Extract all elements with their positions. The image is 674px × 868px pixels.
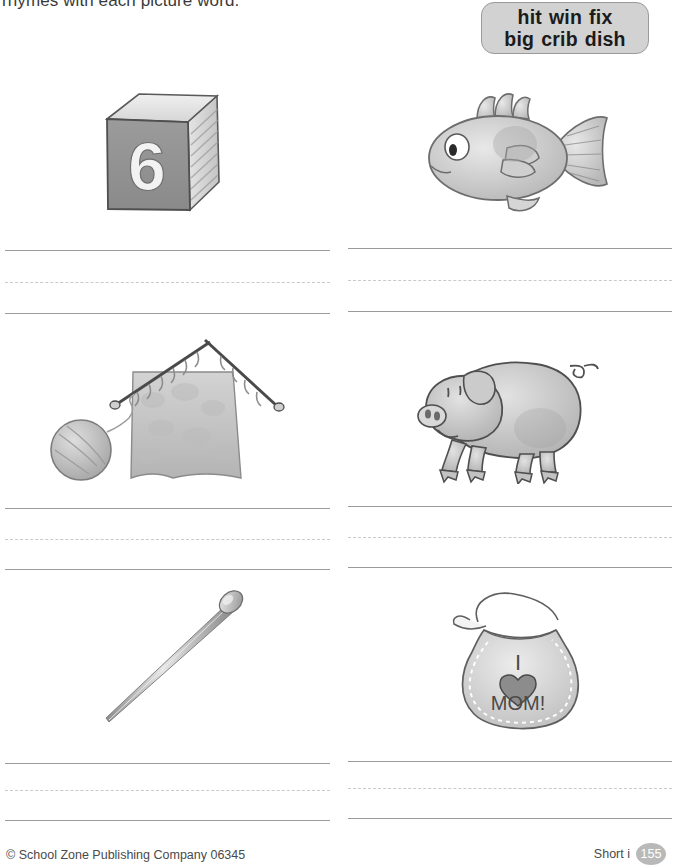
writing-lines-group-3-left[interactable] <box>5 763 330 829</box>
rule-middle-dashed <box>5 539 330 540</box>
skill-label: Short i <box>594 847 630 861</box>
writing-lines-group-2-right[interactable] <box>348 506 672 572</box>
knitting-icon <box>45 328 295 488</box>
rule-top-solid <box>5 508 330 509</box>
rule-middle-dashed <box>5 282 330 283</box>
straight-pin-icon <box>85 582 255 732</box>
writing-lines-group-1-right[interactable] <box>348 248 672 314</box>
word-hit[interactable]: hit <box>518 6 542 28</box>
rule-bottom-solid <box>5 820 330 821</box>
instruction-text: rhymes with each picture word. <box>2 0 239 11</box>
picture-toy-block: 6 <box>95 82 230 222</box>
rule-middle-dashed <box>348 788 672 789</box>
picture-pin <box>85 582 255 732</box>
pig-icon <box>412 342 612 484</box>
bib-icon: I MOM! <box>440 586 615 734</box>
bib-text-i: I <box>515 650 521 675</box>
picture-pig <box>412 342 612 484</box>
toy-block-icon: 6 <box>95 82 230 222</box>
writing-lines-group-3-right[interactable] <box>348 761 672 827</box>
page-number-badge: 155 <box>636 843 666 865</box>
rule-bottom-solid <box>348 311 672 312</box>
word-dish[interactable]: dish <box>585 28 626 50</box>
copyright-notice: © School Zone Publishing Company 06345 <box>6 848 245 862</box>
word-crib[interactable]: crib <box>541 28 578 50</box>
word-bank: hitwinfix bigcribdish <box>481 2 649 54</box>
rule-top-solid <box>5 250 330 251</box>
bib-text-mom: MOM! <box>491 692 545 714</box>
fish-icon <box>415 88 615 223</box>
picture-bib: I MOM! <box>440 586 615 734</box>
rule-middle-dashed <box>5 790 330 791</box>
rule-middle-dashed <box>348 537 672 538</box>
rule-middle-dashed <box>348 280 672 281</box>
word-big[interactable]: big <box>504 28 534 50</box>
word-bank-row-2: bigcribdish <box>501 29 629 50</box>
picture-knitting <box>45 328 295 488</box>
word-win[interactable]: win <box>549 6 582 28</box>
word-fix[interactable]: fix <box>589 6 612 28</box>
block-number-label: 6 <box>128 128 166 204</box>
footer-right-group: Short i 155 <box>594 843 666 865</box>
rule-bottom-solid <box>348 567 672 568</box>
rule-bottom-solid <box>348 818 672 819</box>
picture-fish <box>415 88 615 223</box>
writing-lines-group-2-left[interactable] <box>5 508 330 574</box>
rule-top-solid <box>5 763 330 764</box>
rule-top-solid <box>348 506 672 507</box>
writing-lines-group-1-left[interactable] <box>5 250 330 316</box>
worksheet-page: rhymes with each picture word. hitwinfix… <box>0 0 674 868</box>
word-bank-row-1: hitwinfix <box>514 7 616 28</box>
rule-bottom-solid <box>5 569 330 570</box>
rule-top-solid <box>348 248 672 249</box>
rule-top-solid <box>348 761 672 762</box>
rule-bottom-solid <box>5 313 330 314</box>
